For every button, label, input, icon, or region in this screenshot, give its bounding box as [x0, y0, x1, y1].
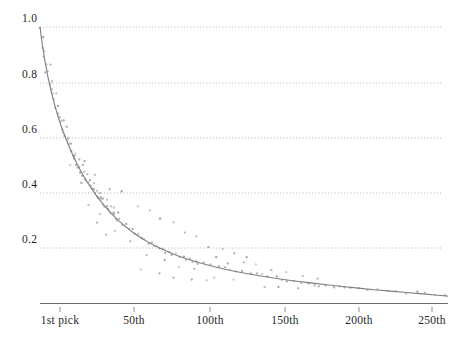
y-axis-tick-label: 0.4 [22, 178, 37, 190]
y-axis-tick-label: 0.8 [22, 68, 37, 80]
x-axis-ticks [60, 307, 432, 312]
x-axis-tick-label: 1st pick [41, 314, 80, 326]
chart-container: 1.00.80.60.40.2 1st pick50th100th150th20… [0, 0, 454, 340]
y-axis-tick-label: 1.0 [22, 12, 37, 24]
y-axis-tick-label: 0.2 [22, 233, 37, 245]
fitted-curve-line [40, 27, 448, 296]
x-axis-tick-label: 200th [345, 314, 373, 326]
scatter-plot-svg [0, 0, 454, 340]
scatter-points [38, 27, 446, 296]
x-axis-tick-label: 250th [418, 314, 446, 326]
x-axis-tick-label: 150th [271, 314, 299, 326]
y-axis-tick-label: 0.6 [22, 123, 37, 135]
x-axis-tick-label: 50th [123, 314, 145, 326]
x-axis-tick-label: 100th [196, 314, 224, 326]
